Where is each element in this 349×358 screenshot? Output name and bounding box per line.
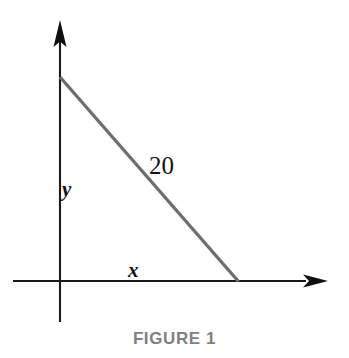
figure-caption: FIGURE 1 [0, 329, 349, 349]
figure-container: y x 20 FIGURE 1 [0, 0, 349, 358]
y-leg-label: y [62, 179, 71, 200]
right-triangle-diagram [0, 0, 349, 358]
hypotenuse-length-label: 20 [149, 153, 174, 178]
x-leg-label: x [128, 260, 139, 281]
x-axis-arrowhead-icon [303, 275, 328, 288]
hypotenuse-segment [60, 77, 239, 282]
